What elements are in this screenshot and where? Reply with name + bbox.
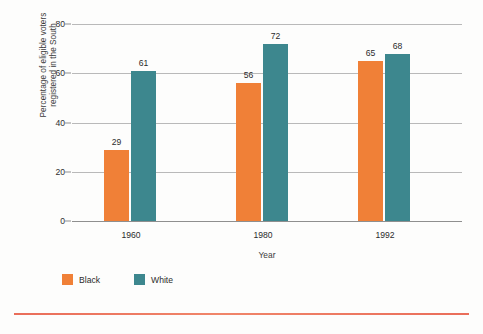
ytick-label-40: 40 xyxy=(55,118,65,128)
xtick-label-1992: 1992 xyxy=(375,230,394,240)
ytick-label-0: 0 xyxy=(60,216,65,226)
ytick-dash-20 xyxy=(65,171,71,172)
y-axis-title-line-1: Percentage of eligible voters xyxy=(39,13,49,118)
ytick-dash-0 xyxy=(65,221,71,222)
ytick-dash-80 xyxy=(65,24,71,25)
y-axis-title-line-2: registered in the South xyxy=(49,23,59,107)
chart-legend: Black White xyxy=(62,274,173,285)
bar-group-1960: 29 61 1960 xyxy=(104,24,158,222)
bar-1992-white[interactable]: 68 xyxy=(385,54,410,222)
xtick-label-1980: 1980 xyxy=(253,230,272,240)
ytick-label-80: 80 xyxy=(55,19,65,29)
bar-value-1992-black: 65 xyxy=(366,48,376,58)
bar-group-1992: 65 68 1992 xyxy=(358,24,412,222)
xtick-label-1960: 1960 xyxy=(121,230,140,240)
bar-group-1980: 56 72 1980 xyxy=(236,24,290,222)
bar-value-1960-white: 61 xyxy=(139,58,149,68)
ytick-label-20: 20 xyxy=(55,167,65,177)
bar-value-1992-white: 68 xyxy=(393,41,403,51)
legend-swatch-black xyxy=(62,274,73,285)
legend-item-white[interactable]: White xyxy=(134,274,173,285)
bar-1980-black[interactable]: 56 xyxy=(236,83,261,221)
bar-value-1960-black: 29 xyxy=(112,137,122,147)
bar-value-1980-black: 56 xyxy=(244,70,254,80)
ytick-dash-60 xyxy=(65,73,71,74)
bar-1980-white[interactable]: 72 xyxy=(263,44,288,221)
ytick-dash-40 xyxy=(65,122,71,123)
plot-area: 80 60 40 20 0 29 61 1960 56 xyxy=(72,24,462,222)
ytick-label-60: 60 xyxy=(55,68,65,78)
bar-1960-black[interactable]: 29 xyxy=(104,150,129,221)
chart-figure: Percentage of eligible voters registered… xyxy=(0,0,483,334)
bar-value-1980-white: 72 xyxy=(271,31,281,41)
bottom-divider-rule xyxy=(14,313,469,315)
bar-1960-white[interactable]: 61 xyxy=(131,71,156,221)
legend-label-black: Black xyxy=(79,275,100,285)
bar-1992-black[interactable]: 65 xyxy=(358,61,383,221)
legend-swatch-white xyxy=(134,274,145,285)
x-axis-title: Year xyxy=(72,250,462,260)
legend-label-white: White xyxy=(151,275,173,285)
legend-item-black[interactable]: Black xyxy=(62,274,100,285)
